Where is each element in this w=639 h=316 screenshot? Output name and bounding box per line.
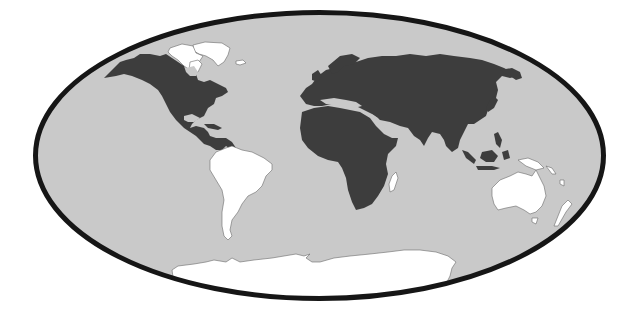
world-map xyxy=(0,0,639,316)
